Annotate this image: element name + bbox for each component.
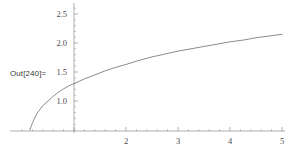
plot-svg: 23451.01.52.02.5 <box>0 0 308 152</box>
y-tick-label: 1.0 <box>56 96 67 106</box>
y-tick-label: 1.5 <box>56 67 67 77</box>
data-curve <box>30 34 282 130</box>
x-tick-label: 4 <box>228 136 233 146</box>
y-tick-label: 2.5 <box>56 9 67 19</box>
x-tick-label: 3 <box>176 136 180 146</box>
x-tick-label: 5 <box>280 136 284 146</box>
plot-figure: 23451.01.52.02.5 <box>0 0 308 152</box>
x-tick-label: 2 <box>124 136 128 146</box>
y-tick-label: 2.0 <box>56 38 67 48</box>
notebook-output-cell: Out[240]= 23451.01.52.02.5 <box>0 0 308 152</box>
